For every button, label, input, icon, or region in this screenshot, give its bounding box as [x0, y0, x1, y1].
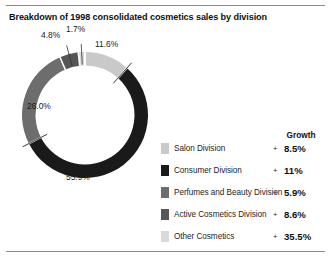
- legend-label-other: Other Cosmetics: [174, 232, 234, 241]
- legend-sign-active: +: [273, 210, 277, 219]
- legend-growth-salon: 8.5%: [284, 143, 327, 154]
- legend-growth-other: 35.5%: [284, 231, 327, 242]
- top-divider: [6, 5, 325, 6]
- donut-slice-group: [22, 52, 148, 178]
- legend-swatch-other: [161, 231, 169, 242]
- legend-growth-perfumes: 5.9%: [284, 187, 327, 198]
- legend-label-consumer: Consumer Division: [174, 166, 242, 175]
- slice-value-other: 1.7%: [66, 24, 85, 34]
- slice-value-active: 4.8%: [41, 30, 60, 40]
- legend-item-active: Active Cosmetics Division + 8.6%: [161, 208, 327, 221]
- legend-growth-consumer: 11%: [284, 165, 327, 176]
- legend-item-perfumes: Perfumes and Beauty Division + 5.9%: [161, 186, 327, 199]
- bottom-divider: [6, 251, 325, 252]
- legend-item-consumer: Consumer Division + 11%: [161, 164, 327, 177]
- legend-swatch-perfumes: [161, 187, 169, 198]
- legend-sign-perfumes: +: [273, 188, 277, 197]
- legend-swatch-active: [161, 209, 169, 220]
- legend-growth-header: Growth: [275, 130, 327, 140]
- donut-chart-svg: [14, 44, 156, 186]
- donut-separator: [78, 49, 80, 69]
- page-title: Breakdown of 1998 consolidated cosmetics…: [9, 12, 324, 23]
- slice-value-consumer: 55.9%: [66, 172, 90, 182]
- legend-swatch-consumer: [161, 165, 169, 176]
- slice-value-salon: 11.6%: [95, 39, 118, 49]
- legend-item-other: Other Cosmetics + 35.5%: [161, 230, 327, 243]
- legend-label-perfumes: Perfumes and Beauty Division: [174, 188, 282, 197]
- legend-label-active: Active Cosmetics Division: [174, 210, 266, 219]
- slice-value-perfumes: 26.0%: [27, 101, 51, 111]
- legend-sign-consumer: +: [273, 166, 277, 175]
- legend-item-salon: Salon Division + 8.5%: [161, 142, 327, 155]
- donut-slice: [29, 68, 148, 178]
- legend-sign-salon: +: [273, 144, 277, 153]
- legend-label-salon: Salon Division: [174, 144, 225, 153]
- donut-chart: [14, 44, 156, 186]
- legend-swatch-salon: [161, 143, 169, 154]
- legend-growth-active: 8.6%: [284, 209, 327, 220]
- legend-sign-other: +: [273, 232, 277, 241]
